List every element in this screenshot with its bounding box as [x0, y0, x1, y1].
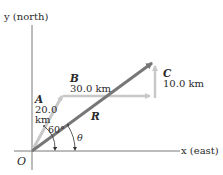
y-axis-label: y (north) [4, 12, 48, 22]
vector-r-name: R [91, 111, 100, 121]
vector-a-name: A [35, 94, 43, 104]
x-axis-label: x (east) [181, 146, 219, 156]
origin-label: O [17, 157, 26, 167]
vector-addition-diagram: y (north) x (east) O A 20.0 km B 30.0 km… [0, 0, 223, 175]
vector-b-magnitude: 30.0 km [70, 84, 111, 94]
vector-c-magnitude: 10.0 km [163, 79, 204, 89]
vector-c-name: C [163, 68, 171, 78]
angle-arc-theta [68, 126, 75, 149]
vector-b-name: B [70, 73, 79, 83]
angle-theta-label: θ [77, 133, 83, 143]
angle-60-label: 60° [48, 125, 65, 135]
